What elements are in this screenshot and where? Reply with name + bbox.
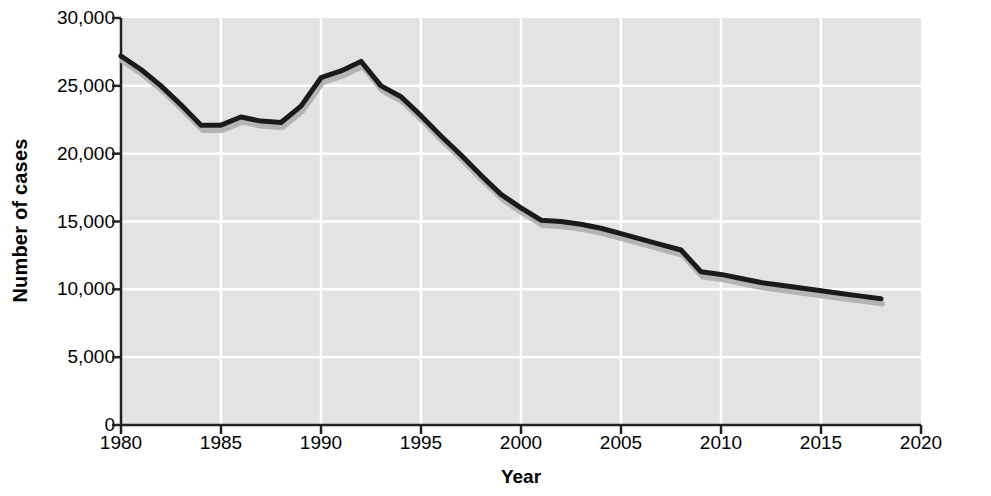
x-axis-title-label: Year	[501, 466, 541, 487]
x-axis-tick-label: 2015	[800, 432, 842, 454]
x-axis-tick-label: 2005	[600, 432, 642, 454]
x-axis-tick-label: 1980	[100, 432, 142, 454]
x-axis-tick-label: 1995	[400, 432, 442, 454]
x-axis-title: Year	[121, 466, 921, 488]
x-axis-tick-label: 2010	[700, 432, 742, 454]
x-axis-tick-label: 1990	[300, 432, 342, 454]
x-axis-tick-label: 2020	[900, 432, 942, 454]
x-axis-tick-label: 1985	[200, 432, 242, 454]
chart-container: Number of cases 05,00010,00015,00020,000…	[0, 0, 991, 496]
x-axis-tick-label: 2000	[500, 432, 542, 454]
plot-area-svg	[0, 0, 991, 496]
